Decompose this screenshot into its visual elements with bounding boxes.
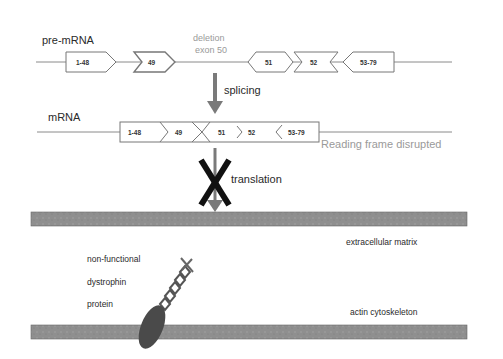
deletion-label-line1: deletion <box>193 33 225 43</box>
extracellular-matrix-label: extracellular matrix <box>346 237 418 247</box>
dmd-deletion-diagram: pre-mRNA deletion exon 50 1-48 49 51 52 … <box>0 0 503 359</box>
deletion-label-line2: exon 50 <box>195 45 227 55</box>
mrna-exon-49: 49 <box>175 129 183 136</box>
actin-membrane <box>31 325 467 339</box>
svg-text:53-79: 53-79 <box>360 59 377 66</box>
mrna-exon-53-79: 53-79 <box>288 129 305 136</box>
protein-label-line1: non-functional <box>87 254 141 264</box>
mrna-exon-1-48: 1-48 <box>128 129 141 136</box>
svg-text:52: 52 <box>310 59 318 66</box>
pre-exon-53-79: 53-79 <box>343 52 394 72</box>
protein-label-line2: dystrophin <box>87 277 126 287</box>
mrna-exon-52: 52 <box>248 129 256 136</box>
pre-exon-1-48: 1-48 <box>66 52 116 72</box>
splicing-arrow <box>207 73 223 114</box>
splicing-label: splicing <box>224 84 261 96</box>
mrna-label: mRNA <box>48 111 81 123</box>
mrna-exon-block: 1-48 49 51 52 53-79 <box>120 122 319 142</box>
pre-mrna-label: pre-mRNA <box>42 34 95 46</box>
mrna-exon-51: 51 <box>218 129 226 136</box>
reading-frame-note: Reading frame disrupted <box>321 138 441 150</box>
translation-label: translation <box>231 173 282 185</box>
extracellular-membrane <box>31 212 467 226</box>
actin-cytoskeleton-label: actin cytoskeleton <box>350 307 418 317</box>
pre-exon-51: 51 <box>248 52 293 72</box>
diagram: pre-mRNA deletion exon 50 1-48 49 51 52 … <box>0 0 503 359</box>
svg-text:51: 51 <box>265 59 273 66</box>
svg-text:1-48: 1-48 <box>76 59 89 66</box>
protein-label-line3: protein <box>87 299 113 309</box>
svg-text:49: 49 <box>148 59 156 66</box>
